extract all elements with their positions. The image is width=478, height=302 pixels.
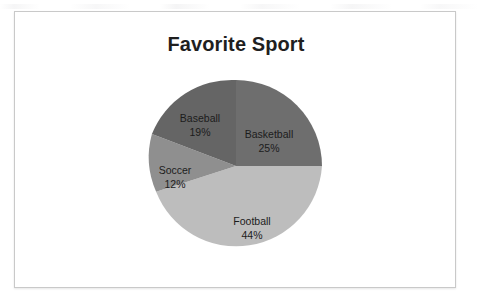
chart-title: Favorite Sport [15, 33, 457, 56]
chart-frame: Favorite Sport Baseball 19% Basketball 2… [14, 11, 456, 288]
pie-label-basketball-percent: 25% [226, 142, 312, 156]
scan-artifact [0, 4, 478, 9]
pie-label-baseball-name: Baseball [180, 112, 220, 124]
pie-chart: Baseball 19% Basketball 25% Soccer 12% F… [142, 72, 330, 260]
pie-label-basketball: Basketball 25% [226, 128, 312, 156]
pie-label-football-percent: 44% [214, 229, 290, 243]
pie-label-soccer-name: Soccer [159, 164, 192, 176]
pie-label-basketball-name: Basketball [245, 128, 293, 140]
pie-label-football: Football 44% [214, 215, 290, 243]
pie-label-football-name: Football [233, 215, 270, 227]
pie-label-soccer: Soccer 12% [146, 164, 204, 192]
pie-label-soccer-percent: 12% [146, 178, 204, 192]
